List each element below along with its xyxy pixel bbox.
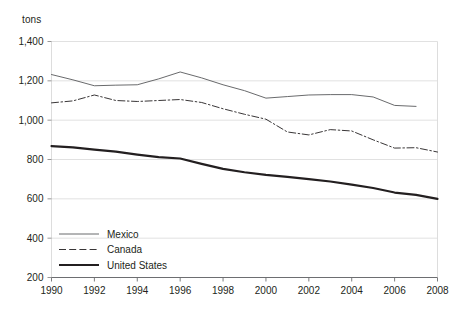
- y-axis-tick-label: 800: [27, 154, 44, 165]
- x-axis: 1990199219941996199820002002200420062008: [40, 42, 449, 296]
- y-axis: 2004006008001,0001,2001,400: [18, 36, 51, 283]
- y-axis-tick-label: 400: [27, 233, 44, 244]
- legend-label-mexico: Mexico: [107, 229, 139, 240]
- chart-legend: MexicoCanadaUnited States: [59, 229, 167, 271]
- x-axis-tick-label: 1996: [169, 285, 192, 296]
- x-axis-tick-label: 2008: [426, 285, 449, 296]
- y-axis-tick-label: 600: [27, 193, 44, 204]
- x-axis-tick-label: 2004: [341, 285, 364, 296]
- x-axis-tick-label: 1992: [83, 285, 106, 296]
- series-line-united-states: [52, 146, 438, 199]
- x-axis-tick-label: 2002: [298, 285, 321, 296]
- y-axis-tick-label: 1,200: [18, 75, 43, 86]
- legend-label-united-states: United States: [107, 260, 167, 271]
- legend-label-canada: Canada: [107, 244, 142, 255]
- grid-lines: [52, 42, 438, 278]
- x-axis-tick-label: 1998: [212, 285, 235, 296]
- x-axis-tick-label: 1994: [126, 285, 149, 296]
- y-axis-tick-label: 1,400: [18, 36, 43, 47]
- y-axis-tick-label: 200: [27, 272, 44, 283]
- x-axis-tick-label: 2006: [383, 285, 406, 296]
- x-axis-tick-label: 2000: [255, 285, 278, 296]
- series-line-mexico: [52, 72, 417, 106]
- y-axis-tick-label: 1,000: [18, 115, 43, 126]
- series-lines: [52, 72, 438, 199]
- chart-container: tons 2004006008001,0001,2001,400 1990199…: [0, 0, 464, 311]
- series-line-canada: [52, 95, 438, 152]
- line-chart-svg: 2004006008001,0001,2001,400 199019921994…: [0, 0, 464, 311]
- x-axis-tick-label: 1990: [40, 285, 63, 296]
